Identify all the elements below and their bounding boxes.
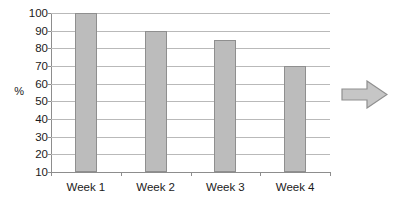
y-tick-mark <box>47 119 51 120</box>
bar <box>145 31 167 172</box>
x-tick-mark <box>51 172 52 176</box>
y-tick-mark <box>47 154 51 155</box>
y-axis-title: % <box>6 85 24 97</box>
y-tick-label: 60 <box>24 78 48 89</box>
y-tick-mark <box>47 31 51 32</box>
bar <box>214 40 236 173</box>
right-arrow-icon <box>341 80 388 109</box>
y-tick-label: 80 <box>24 43 48 54</box>
y-tick-label: 100 <box>24 8 48 19</box>
bar <box>284 66 306 172</box>
y-tick-label: 40 <box>24 114 48 125</box>
y-tick-mark <box>47 66 51 67</box>
x-tick-mark <box>191 172 192 176</box>
y-axis-tick-labels: 100908070605040302010 <box>24 6 48 178</box>
x-tick-label: Week 4 <box>260 181 330 194</box>
x-tick-label: Week 3 <box>190 181 260 194</box>
y-axis-line <box>51 13 52 172</box>
x-tick-label: Week 1 <box>51 181 121 194</box>
y-tick-label: 90 <box>24 25 48 36</box>
x-tick-mark <box>121 172 122 176</box>
y-tick-label: 70 <box>24 61 48 72</box>
bar <box>75 13 97 172</box>
y-tick-mark <box>47 101 51 102</box>
bar-chart-figure: % 100908070605040302010 Week 1Week 2Week… <box>0 0 395 208</box>
y-tick-label: 50 <box>24 96 48 107</box>
x-tick-mark <box>330 172 331 176</box>
y-tick-label: 20 <box>24 149 48 160</box>
y-tick-mark <box>47 13 51 14</box>
x-tick-mark <box>260 172 261 176</box>
y-tick-mark <box>47 48 51 49</box>
x-tick-label: Week 2 <box>121 181 191 194</box>
y-tick-label: 30 <box>24 131 48 142</box>
plot-area <box>51 13 330 172</box>
y-tick-label: 10 <box>24 167 48 178</box>
y-tick-mark <box>47 84 51 85</box>
y-tick-mark <box>47 137 51 138</box>
